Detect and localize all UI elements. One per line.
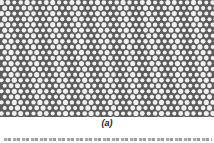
lattice-micrograph (0, 0, 214, 117)
subfigure-label: (a) (0, 117, 214, 129)
figure-caption-truncated (4, 136, 212, 143)
hexagonal-lattice-image (0, 0, 214, 117)
caption-text-line (4, 138, 212, 141)
